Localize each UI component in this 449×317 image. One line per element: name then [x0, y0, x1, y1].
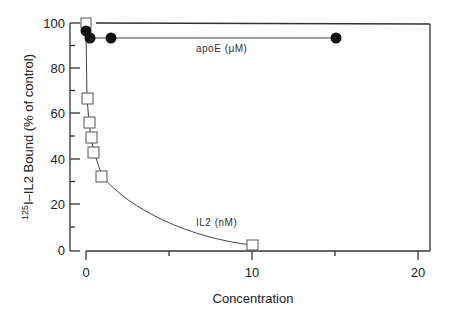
y-tick-20: 20: [51, 197, 65, 212]
svg-text:125I–IL2 Bound (% of control): 125I–IL2 Bound (% of control): [20, 54, 36, 220]
il2-point: [88, 147, 99, 158]
x-tick-20: 20: [411, 265, 425, 280]
apoe-series-label: apoE (μM): [196, 43, 247, 54]
y-axis: [70, 23, 80, 227]
apoe-series-line: [86, 31, 335, 38]
plot-frame: [70, 23, 430, 251]
il2-point: [247, 240, 258, 250]
il2-point: [96, 171, 107, 182]
apoe-point: [85, 33, 96, 44]
y-axis-title: 125I–IL2 Bound (% of control): [20, 54, 36, 220]
il2-point: [82, 93, 93, 104]
y-tick-80: 80: [51, 61, 65, 76]
il2-series-curve: [86, 23, 252, 245]
x-tick-0: 0: [82, 265, 89, 280]
x-tick-labels: 0 10 20: [82, 265, 425, 280]
il2-series-label: IL2 (nM): [196, 217, 237, 228]
apoe-series-markers: [81, 26, 342, 44]
apoe-point: [106, 33, 117, 44]
y-axis-title-main: I–IL2 Bound (% of control): [21, 54, 36, 205]
y-tick-100: 100: [43, 16, 65, 31]
x-axis-title: Concentration: [213, 291, 294, 306]
il2-point: [84, 117, 95, 128]
x-tick-10: 10: [245, 265, 259, 280]
il2-point: [86, 132, 97, 143]
y-tick-40: 40: [51, 152, 65, 167]
y-tick-labels: 0 20 40 60 80 100: [43, 16, 65, 258]
x-axis: [86, 251, 430, 260]
y-tick-60: 60: [51, 106, 65, 121]
y-axis-title-superscript: 125: [20, 205, 30, 220]
y-tick-0: 0: [58, 243, 65, 258]
chart: 0 10 20 Concentration 0 20 40 60 80 100 …: [0, 0, 449, 317]
apoe-point: [331, 33, 342, 44]
